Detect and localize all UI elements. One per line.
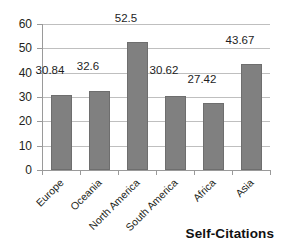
- y-axis-label-30: 30: [6, 91, 32, 103]
- y-axis-label-20: 20: [6, 115, 32, 127]
- bar-slot-north-america: [127, 24, 148, 170]
- bar-slot-oceania: [89, 24, 110, 170]
- y-axis-label-0: 0: [6, 164, 32, 176]
- chart-title: Self-Citations: [186, 226, 274, 241]
- bar-north-america[interactable]: [127, 42, 148, 170]
- x-tick-3: [156, 171, 157, 175]
- bar-chart: 60 50 40 30 20 10 0 30.84 32.6 52.5 30.6…: [0, 0, 288, 249]
- bar-europe[interactable]: [51, 95, 72, 170]
- x-tick-0: [42, 171, 43, 175]
- data-label-oceania: 32.6: [64, 60, 112, 72]
- data-label-north-america: 52.5: [102, 12, 150, 24]
- y-axis-label-10: 10: [6, 140, 32, 152]
- x-tick-1: [80, 171, 81, 175]
- y-axis-label-60: 60: [6, 18, 32, 30]
- bar-slot-south-america: [165, 24, 186, 170]
- x-tick-2: [118, 171, 119, 175]
- data-label-asia: 43.67: [216, 34, 264, 46]
- bar-oceania[interactable]: [89, 91, 110, 170]
- x-tick-4: [194, 171, 195, 175]
- bar-asia[interactable]: [241, 64, 262, 170]
- x-tick-6: [270, 171, 271, 175]
- x-tick-5: [232, 171, 233, 175]
- y-axis-label-50: 50: [6, 42, 32, 54]
- bar-slot-europe: [51, 24, 72, 170]
- bar-africa[interactable]: [203, 103, 224, 170]
- bar-south-america[interactable]: [165, 96, 186, 171]
- data-label-africa: 27.42: [178, 73, 226, 85]
